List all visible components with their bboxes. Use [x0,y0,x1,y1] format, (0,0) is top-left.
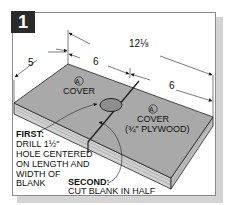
drilled-hole [100,99,122,112]
callout-first-line: BLANK [16,179,46,189]
dimension-left-half: 6 [93,57,99,67]
step-number-badge: 1 [11,11,35,33]
callout-second-text: CUT BLANK IN HALF [68,187,155,197]
dimension-right-half: 6 [169,81,175,91]
dimension-overall-length: 12⅛ [129,39,148,49]
part-label-left: COVER [63,87,95,97]
dimension-width-left: 5 [28,58,34,68]
part-sublabel-right: (¾" PLYWOOD) [125,125,190,135]
